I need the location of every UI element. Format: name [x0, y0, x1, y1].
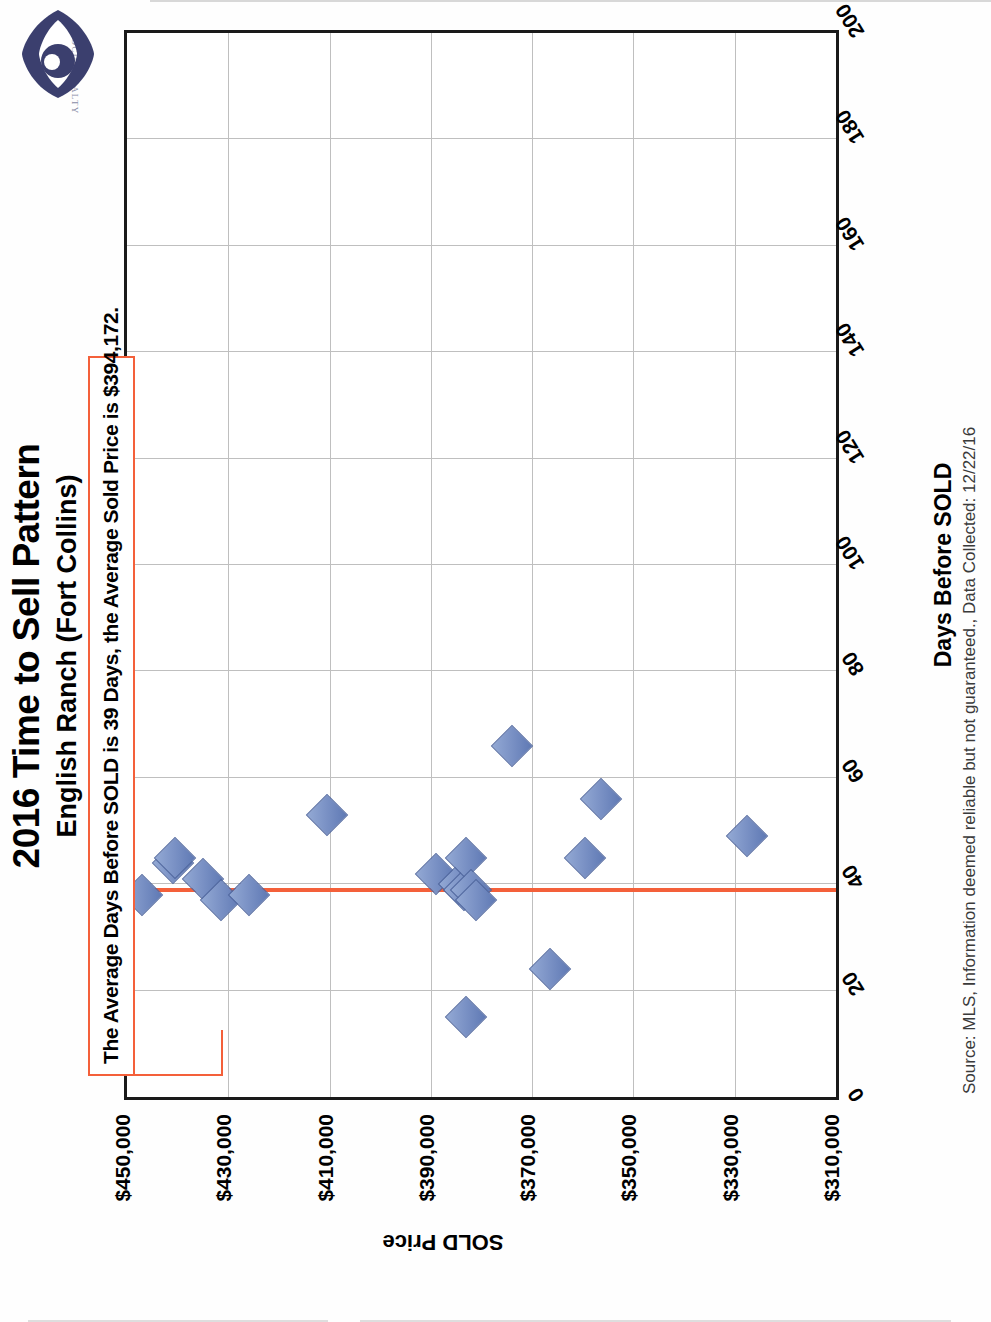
page-subtitle: English Ranch (Fort Collins)	[52, 206, 83, 1106]
x-gridline	[127, 458, 836, 459]
scatter-plot-area	[124, 30, 839, 1100]
page-title: 2016 Time to Sell Pattern	[6, 206, 48, 1106]
x-gridline	[127, 138, 836, 139]
y-axis-tick-label: $330,000	[719, 1114, 743, 1234]
average-annotation-text: The Average Days Before SOLD is 39 Days,…	[99, 307, 123, 1064]
data-point-marker	[445, 996, 487, 1038]
x-gridline	[127, 564, 836, 565]
x-gridline	[127, 245, 836, 246]
y-axis-tick-label: $310,000	[820, 1114, 844, 1234]
x-axis-tick-label: 0	[843, 1083, 870, 1106]
x-axis-tick-label: 20	[837, 967, 870, 1000]
y-axis-tick-label: $430,000	[212, 1114, 236, 1234]
data-point-marker	[579, 778, 621, 820]
data-point-marker	[306, 794, 348, 836]
data-point-marker	[564, 836, 606, 878]
source-note: Source: MLS, Information deemed reliable…	[960, 427, 980, 1094]
data-point-marker	[726, 815, 768, 857]
callout-connector-horizontal	[221, 1030, 223, 1076]
x-axis-title: Days Before SOLD	[930, 30, 957, 1100]
average-annotation-box: The Average Days Before SOLD is 39 Days,…	[88, 356, 135, 1076]
x-gridline	[127, 777, 836, 778]
y-axis-tick-label: $370,000	[516, 1114, 540, 1234]
data-point-marker	[227, 874, 269, 916]
y-gridline	[228, 33, 229, 1097]
data-point-marker	[529, 948, 571, 990]
y-axis-tick-label: $350,000	[617, 1114, 641, 1234]
y-gridline	[431, 33, 432, 1097]
x-axis-tick-label: 80	[837, 648, 870, 681]
data-point-marker	[491, 725, 533, 767]
callout-connector-vertical	[135, 1074, 223, 1076]
x-gridline	[127, 670, 836, 671]
y-axis-tick-label: $390,000	[415, 1114, 439, 1234]
y-gridline	[633, 33, 634, 1097]
x-axis-tick-label: 40	[837, 861, 870, 894]
y-gridline	[532, 33, 533, 1097]
y-axis-tick-label: $410,000	[314, 1114, 338, 1234]
y-gridline	[735, 33, 736, 1097]
x-gridline	[127, 990, 836, 991]
x-axis-tick-label: 60	[837, 754, 870, 787]
x-gridline	[127, 351, 836, 352]
y-axis-tick-label: $450,000	[111, 1114, 135, 1234]
scanned-page: FOCUS REALTY 2016 Time to Sell Pattern E…	[0, 0, 991, 1322]
y-gridline	[330, 33, 331, 1097]
rotated-chart-figure: 2016 Time to Sell Pattern English Ranch …	[0, 0, 991, 1322]
